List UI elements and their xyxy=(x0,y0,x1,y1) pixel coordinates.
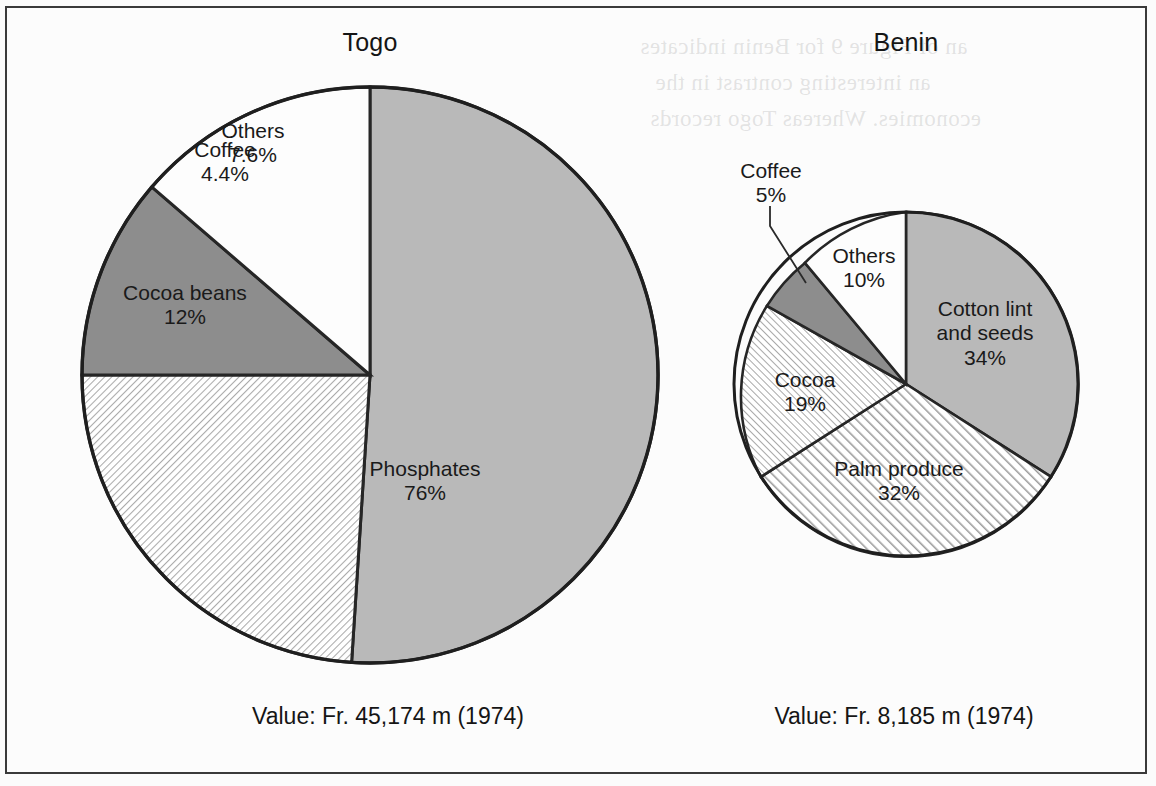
togo-label-phosphates-pct: 76% xyxy=(370,481,481,505)
togo-label-cocoa-beans-pct: 12% xyxy=(123,305,247,329)
benin-label-coffee-pct: 5% xyxy=(740,183,802,207)
benin-label-cocoa: Cocoa 19% xyxy=(775,368,836,417)
benin-label-cocoa-pct: 19% xyxy=(775,392,836,416)
pie-charts-canvas xyxy=(0,0,1156,786)
togo-label-cocoa-beans-name: Cocoa beans xyxy=(123,281,247,304)
benin-label-others-pct: 10% xyxy=(832,268,895,292)
benin-label-palm-pct: 32% xyxy=(834,481,964,505)
benin-label-coffee: Coffee 5% xyxy=(740,159,802,208)
panel-title-togo: Togo xyxy=(342,28,397,57)
togo-label-phosphates-name: Phosphates xyxy=(370,457,481,480)
benin-label-cotton-name-line-2: and seeds xyxy=(937,322,1034,346)
benin-label-others-name: Others xyxy=(832,244,895,267)
caption-benin: Value: Fr. 8,185 m (1974) xyxy=(774,703,1033,730)
togo-label-phosphates: Phosphates 76% xyxy=(370,457,481,506)
benin-label-cotton-name-line-1: Cotton lint xyxy=(938,297,1033,320)
figure-container: an of Figure 9 for Benin indicates an in… xyxy=(0,0,1156,786)
togo-label-coffee-name: Coffee xyxy=(194,138,256,161)
togo-slice-cocoa-beans[interactable] xyxy=(82,375,370,662)
panel-title-benin: Benin xyxy=(874,28,939,57)
benin-label-others: Others 10% xyxy=(832,244,895,293)
togo-slice-phosphates[interactable] xyxy=(352,87,659,663)
benin-label-cocoa-name: Cocoa xyxy=(775,368,836,391)
togo-pie xyxy=(82,87,658,663)
benin-label-palm-name: Palm produce xyxy=(834,457,964,480)
benin-label-coffee-name: Coffee xyxy=(740,159,802,182)
benin-label-palm-produce: Palm produce 32% xyxy=(834,457,964,506)
togo-label-coffee: Coffee 4.4% xyxy=(194,138,256,187)
caption-togo: Value: Fr. 45,174 m (1974) xyxy=(252,703,524,730)
benin-label-cotton-lint-and-seeds: Cotton lint and seeds 34% xyxy=(937,297,1034,370)
benin-label-cotton-pct: 34% xyxy=(937,346,1034,370)
togo-label-coffee-pct: 4.4% xyxy=(194,162,256,186)
togo-label-cocoa-beans: Cocoa beans 12% xyxy=(123,281,247,330)
